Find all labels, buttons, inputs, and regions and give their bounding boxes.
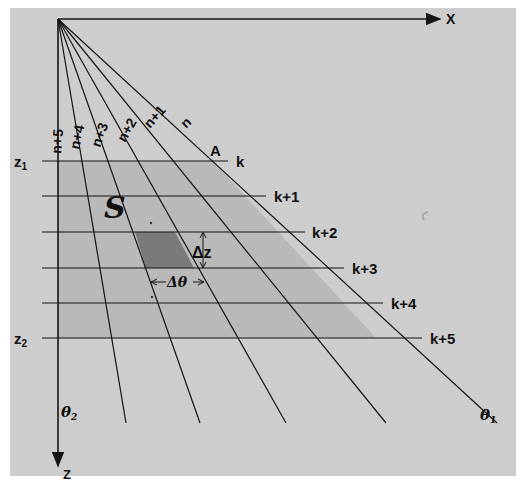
dtheta-label: Δθ — [166, 274, 188, 290]
ray-label-n+4: n+4 — [66, 123, 87, 151]
level-label-k+4: k+4 — [391, 295, 417, 312]
x-axis-label: X — [446, 11, 456, 27]
region-s-label: S — [104, 190, 126, 225]
level-label-k+1: k+1 — [274, 188, 299, 205]
level-label-k+3: k+3 — [352, 260, 377, 277]
ray-label-n+3: n+3 — [88, 120, 111, 149]
z1-label: z1 — [14, 153, 28, 172]
theta1-label: θ1 — [480, 406, 496, 425]
point-a-label: A — [210, 142, 221, 159]
theta2-label: θ2 — [61, 403, 77, 422]
ray-label-n+1: n+1 — [140, 102, 168, 131]
z-axis-label: Z — [63, 467, 71, 482]
level-label-k: k — [236, 153, 245, 170]
ray-label-n+5: n+5 — [48, 128, 66, 154]
ray-label-n: n — [177, 114, 194, 132]
speck — [151, 296, 153, 298]
ray-label-n+2: n+2 — [114, 115, 140, 144]
region-s-shading — [58, 161, 376, 338]
speck — [150, 222, 152, 224]
level-label-k+5: k+5 — [430, 330, 455, 347]
smudge — [423, 212, 428, 220]
diagram-canvas: X Z z1 z2 n+5 n+4 n+3 n+2 n+1 n A k k+1 … — [0, 0, 522, 488]
dz-label: Δz — [192, 244, 212, 261]
z2-label: z2 — [14, 330, 28, 349]
level-label-k+2: k+2 — [312, 224, 337, 241]
